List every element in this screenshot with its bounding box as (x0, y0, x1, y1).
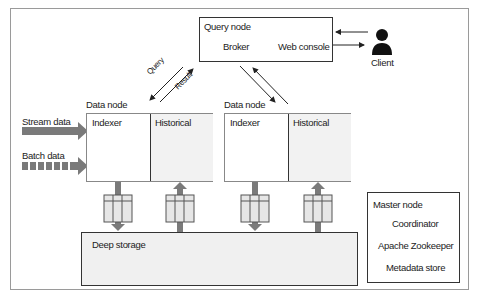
segment-icon (241, 195, 269, 222)
deep-storage-label: Deep storage (92, 239, 145, 250)
historical-label: Historical (293, 117, 329, 128)
master-node-title: Master node (373, 199, 423, 210)
data-node-2-title: Data node (224, 99, 265, 110)
segment-icon (304, 195, 332, 222)
segment-icons (104, 195, 332, 222)
historical-label: Historical (155, 117, 191, 128)
query-node: Query node Broker Web console (199, 17, 333, 62)
historical-panel: Historical (288, 114, 351, 181)
broker-label: Broker (223, 41, 249, 52)
person-icon (372, 29, 392, 55)
indexer-label: Indexer (92, 117, 122, 128)
data-node-1: Indexer Historical (86, 113, 213, 182)
coordinator-label: Coordinator (392, 218, 438, 229)
segment-icon (166, 195, 194, 222)
master-node: Master node Coordinator Apache Zookeeper… (367, 192, 460, 283)
historical-panel: Historical (150, 114, 213, 181)
web-console-label: Web console (278, 41, 329, 52)
data-node-1-title: Data node (86, 99, 127, 110)
indexer-panel: Indexer (87, 114, 150, 181)
data-node-2: Indexer Historical (224, 113, 351, 182)
deep-storage: Deep storage (81, 232, 358, 286)
client-query-arrows (332, 32, 368, 45)
segment-arrows (111, 181, 325, 232)
indexer-label: Indexer (230, 117, 260, 128)
query-node-title: Query node (204, 21, 251, 32)
stream-data-label: Stream data (22, 116, 70, 127)
batch-data-label: Batch data (22, 150, 64, 161)
metadata-store-label: Metadata store (386, 262, 445, 273)
client-label: Client (371, 57, 394, 68)
zookeeper-label: Apache Zookeeper (378, 240, 453, 251)
indexer-panel: Indexer (225, 114, 288, 181)
segment-icon (104, 195, 132, 222)
